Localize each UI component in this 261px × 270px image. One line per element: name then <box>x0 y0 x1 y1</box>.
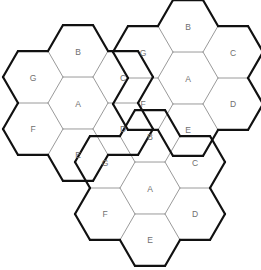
hexagon-label-left-cluster-B: B <box>75 47 81 57</box>
hexagon-label-right-cluster-G: G <box>140 48 147 58</box>
hexagon-label-right-cluster-D: D <box>230 99 236 109</box>
hexagon-label-left-cluster-F: F <box>30 124 35 134</box>
hexagon-label-bottom-cluster-E: E <box>147 235 153 245</box>
hexagon-label-bottom-cluster-G: G <box>102 158 109 168</box>
hexagon-diagram: ABCDEFGABCDEFGABCDEFG <box>0 0 261 270</box>
hexagon-label-right-cluster-A: A <box>185 74 191 84</box>
hexagon-label-right-cluster-B: B <box>185 22 191 32</box>
hexagon-label-left-cluster-G: G <box>30 73 37 83</box>
hexagon-label-bottom-cluster-A: A <box>147 184 153 194</box>
hexagon-label-right-cluster-E: E <box>185 125 191 135</box>
hexagon-label-bottom-cluster-B: B <box>147 132 153 142</box>
hexagon-label-left-cluster-E: E <box>75 150 81 160</box>
hexagon-label-bottom-cluster-F: F <box>102 209 107 219</box>
hexagon-label-bottom-cluster-D: D <box>192 209 198 219</box>
hexagon-label-left-cluster-C: C <box>120 73 126 83</box>
hexagon-label-left-cluster-D: D <box>120 124 126 134</box>
hexagon-label-right-cluster-C: C <box>230 48 236 58</box>
hexagon-label-right-cluster-F: F <box>140 99 145 109</box>
hexagon-label-left-cluster-A: A <box>75 99 81 109</box>
hexagon-faces-layer <box>3 0 261 266</box>
hexagon-tiling-canvas: ABCDEFGABCDEFGABCDEFG <box>0 0 261 270</box>
hexagon-label-bottom-cluster-C: C <box>192 158 198 168</box>
